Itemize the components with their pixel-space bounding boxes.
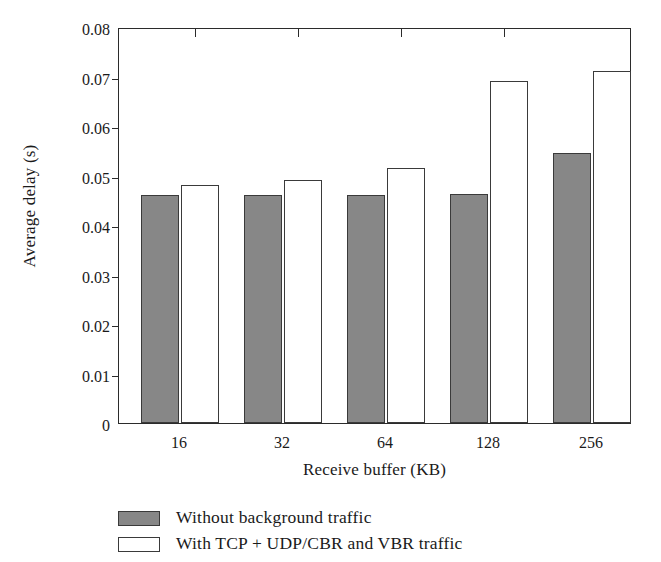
x-tick-label: 32	[247, 434, 317, 452]
y-tick-mark	[112, 178, 119, 179]
legend-label: Without background traffic	[176, 509, 372, 527]
y-axis-title: Average delay (s)	[20, 26, 40, 386]
x-tick-label: 16	[144, 434, 214, 452]
bar-series1-cat2	[387, 168, 425, 423]
x-tick-label: 256	[556, 434, 626, 452]
x-tick-mark-top	[195, 29, 196, 37]
x-tick-mark-top	[504, 29, 505, 37]
y-tick-mark	[112, 227, 119, 228]
bar-series0-cat3	[450, 194, 488, 423]
x-tick-mark-top	[401, 29, 402, 37]
bar-series1-cat3	[490, 81, 528, 423]
y-tick-mark	[112, 326, 119, 327]
bar-series0-cat2	[347, 195, 385, 423]
y-tick-label: 0.01	[46, 369, 110, 385]
y-tick-label: 0.07	[46, 72, 110, 88]
x-tick-label: 64	[350, 434, 420, 452]
bar-series0-cat4	[553, 153, 591, 423]
y-tick-label: 0.05	[46, 171, 110, 187]
y-tick-label: 0.03	[46, 270, 110, 286]
y-tick-label: 0.02	[46, 319, 110, 335]
bar-chart-figure: Average delay (s) 0.08 0.07 0.06 0.05 0.…	[0, 0, 661, 562]
y-tick-mark	[112, 79, 119, 80]
legend-item: Without background traffic	[118, 505, 588, 531]
chart-legend: Without background traffic With TCP + UD…	[118, 505, 588, 557]
y-tick-label: 0.06	[46, 121, 110, 137]
legend-swatch-filled	[118, 511, 160, 526]
y-tick-label: 0.08	[46, 22, 110, 38]
x-tick-mark-top	[298, 29, 299, 37]
bar-series1-cat4	[593, 71, 631, 423]
bar-series0-cat1	[244, 195, 282, 423]
plot-frame	[118, 28, 631, 424]
legend-item: With TCP + UDP/CBR and VBR traffic	[118, 531, 588, 557]
x-tick-label: 128	[453, 434, 523, 452]
y-tick-mark	[112, 128, 119, 129]
x-axis-title: Receive buffer (KB)	[118, 460, 631, 480]
bar-series1-cat0	[181, 185, 219, 423]
legend-swatch-hollow	[118, 537, 160, 552]
bar-series0-cat0	[141, 195, 179, 423]
y-tick-mark	[112, 277, 119, 278]
legend-label: With TCP + UDP/CBR and VBR traffic	[176, 535, 463, 553]
y-tick-label: 0.04	[46, 220, 110, 236]
y-tick-label: 0	[46, 418, 110, 434]
bar-series1-cat1	[284, 180, 322, 423]
y-tick-mark	[112, 376, 119, 377]
